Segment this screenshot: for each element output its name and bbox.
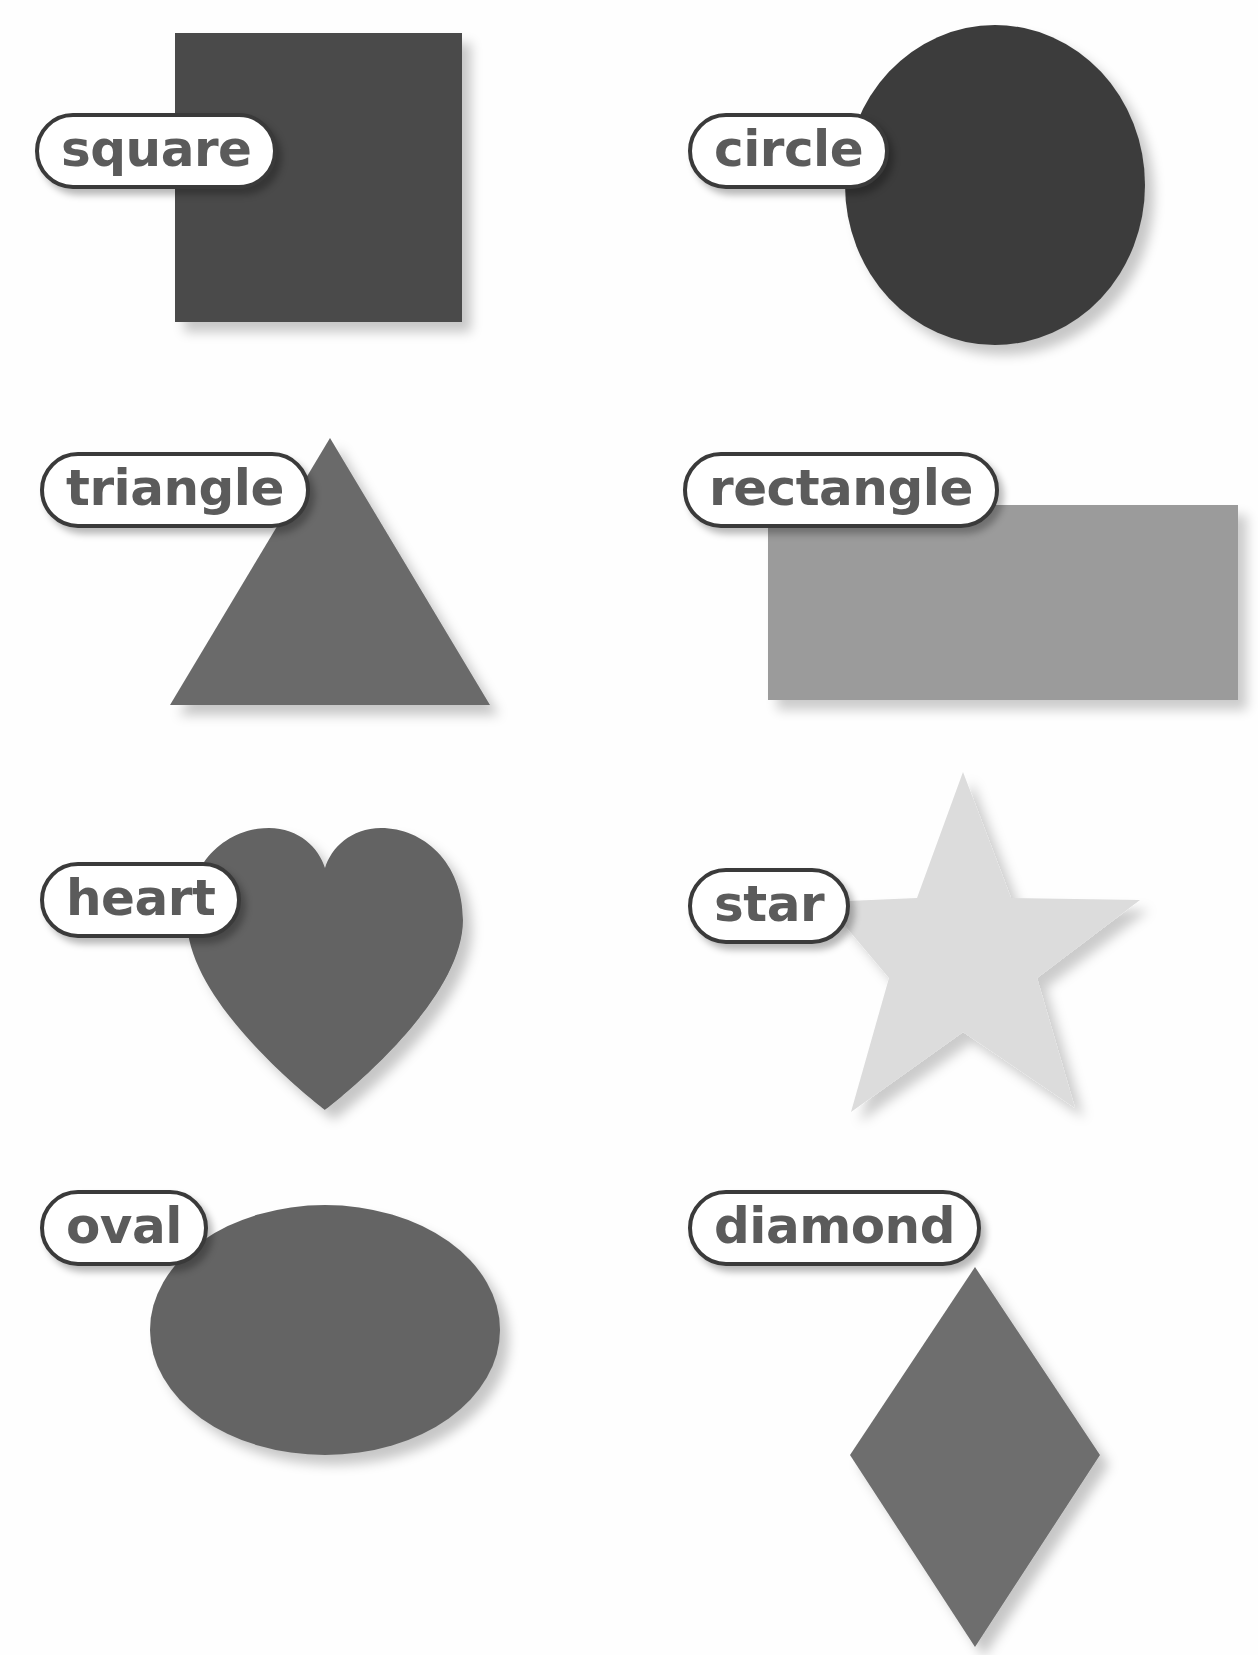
label-diamond[interactable]: diamond <box>688 1190 981 1266</box>
star-shape-icon <box>815 760 1145 1135</box>
label-oval[interactable]: oval <box>40 1190 208 1266</box>
label-star[interactable]: star <box>688 868 850 944</box>
label-circle-text: circle <box>714 124 863 174</box>
heart-shape-icon <box>175 810 495 1130</box>
label-triangle-text: triangle <box>66 463 284 513</box>
triangle-shape-icon <box>140 400 520 730</box>
label-square-text: square <box>61 124 251 174</box>
label-circle[interactable]: circle <box>688 113 889 189</box>
label-star-text: star <box>714 879 824 929</box>
label-triangle[interactable]: triangle <box>40 452 310 528</box>
circle-shape-icon <box>845 25 1145 345</box>
label-rectangle[interactable]: rectangle <box>683 452 999 528</box>
shapes-poster: square circle triangle rectangle <box>0 0 1258 1655</box>
label-rectangle-text: rectangle <box>709 463 973 513</box>
label-heart[interactable]: heart <box>40 862 241 938</box>
label-square[interactable]: square <box>35 113 277 189</box>
label-heart-text: heart <box>66 873 215 923</box>
label-oval-text: oval <box>66 1201 182 1251</box>
rectangle-shape-icon <box>768 505 1238 700</box>
label-diamond-text: diamond <box>714 1201 955 1251</box>
diamond-shape-icon <box>835 1255 1125 1655</box>
